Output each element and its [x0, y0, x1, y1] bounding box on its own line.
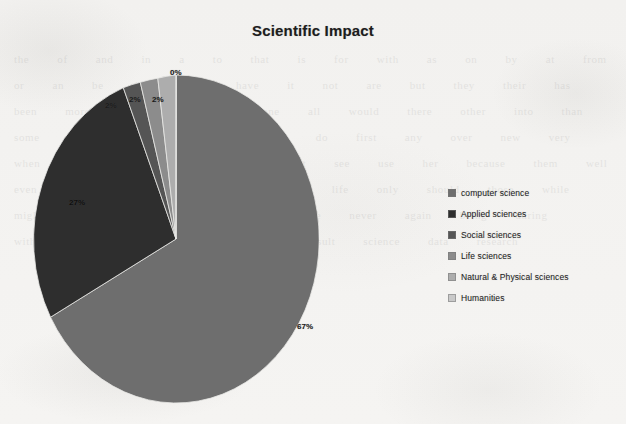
legend-item-computer-science[interactable]: computer science	[448, 182, 620, 203]
legend-label-natural-physical-sciences: Natural & Physical sciences	[461, 272, 569, 282]
legend-item-applied-sciences[interactable]: Applied sciences	[448, 203, 620, 224]
data-label-computer-science: 67%	[297, 322, 313, 331]
pie-chart-figure: Scientific Impact 67% 27% 2% 2% 2%	[0, 0, 626, 424]
chart-legend: computer science Applied sciences Social…	[448, 182, 620, 308]
legend-item-social-sciences[interactable]: Social sciences	[448, 224, 620, 245]
pie-svg	[33, 75, 319, 404]
legend-swatch-natural-physical-sciences-icon	[448, 273, 456, 281]
legend-label-humanities: Humanities	[461, 293, 505, 303]
legend-item-life-sciences[interactable]: Life sciences	[448, 245, 620, 266]
data-label-applied-sciences: 27%	[69, 198, 85, 207]
legend-label-life-sciences: Life sciences	[461, 251, 511, 261]
data-label-social-sciences: 2%	[105, 101, 117, 110]
data-label-natural-physical-sciences: 2%	[152, 95, 164, 104]
legend-item-natural-physical-sciences[interactable]: Natural & Physical sciences	[448, 266, 620, 287]
legend-swatch-computer-science-icon	[448, 189, 456, 197]
data-label-life-sciences: 2%	[129, 95, 141, 104]
legend-label-applied-sciences: Applied sciences	[461, 209, 526, 219]
pie-chart-plot-area: 67% 27% 2% 2% 2% 0%	[33, 75, 319, 404]
legend-label-computer-science: computer science	[461, 188, 529, 198]
pie-slices	[34, 75, 319, 403]
chart-title: Scientific Impact	[0, 22, 626, 39]
legend-item-humanities[interactable]: Humanities	[448, 287, 620, 308]
legend-swatch-humanities-icon	[448, 294, 456, 302]
legend-swatch-applied-sciences-icon	[448, 210, 456, 218]
legend-swatch-life-sciences-icon	[448, 252, 456, 260]
data-label-humanities: 0%	[170, 68, 182, 77]
legend-label-social-sciences: Social sciences	[461, 230, 521, 240]
legend-swatch-social-sciences-icon	[448, 231, 456, 239]
